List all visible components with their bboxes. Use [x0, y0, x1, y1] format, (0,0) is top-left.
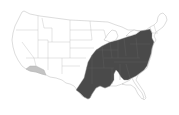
us-map — [0, 0, 179, 115]
